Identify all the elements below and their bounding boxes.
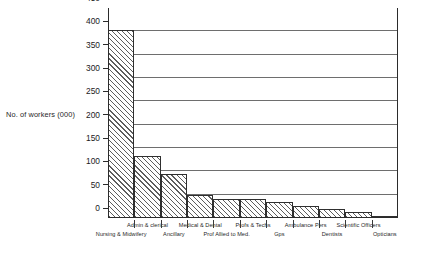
plot-frame bbox=[108, 8, 398, 218]
y-axis-tick: 100 bbox=[86, 156, 108, 166]
y-axis-tick: 0 bbox=[95, 203, 108, 213]
category-divider bbox=[134, 220, 135, 228]
y-axis-tick-label: 100 bbox=[86, 156, 103, 166]
x-axis-category-label: Gps bbox=[274, 231, 284, 237]
plot-area: 050100150200250300350400450 bbox=[108, 8, 398, 218]
category-divider bbox=[240, 220, 241, 228]
x-axis-category-labels: Nursing & MidwiferyAdmin & clericalAncil… bbox=[108, 219, 398, 253]
category-divider bbox=[293, 220, 294, 228]
category-divider bbox=[345, 220, 346, 228]
bar-chart-figure: No. of workers (000) 0501001502002503003… bbox=[0, 0, 421, 255]
category-divider bbox=[319, 220, 320, 228]
y-axis-tick-label: 150 bbox=[86, 133, 103, 143]
y-axis-tick-label: 300 bbox=[86, 63, 103, 73]
y-axis-tick: 150 bbox=[86, 133, 108, 143]
y-axis-tick-label: 50 bbox=[91, 180, 103, 190]
y-axis-tick-label: 200 bbox=[86, 110, 103, 120]
y-axis-tick: 400 bbox=[86, 16, 108, 26]
x-axis-category-label: Prof Allied to Med. bbox=[203, 231, 249, 237]
category-divider bbox=[266, 220, 267, 228]
y-axis-tick-label: 0 bbox=[95, 203, 103, 213]
y-axis-tick-label: 400 bbox=[86, 16, 103, 26]
category-divider bbox=[161, 220, 162, 228]
y-axis-tick: 200 bbox=[86, 110, 108, 120]
x-axis-category-label: Scientific Officers bbox=[336, 222, 380, 228]
x-axis-category-label: Ancillary bbox=[163, 231, 185, 237]
x-axis-category-label: Dentists bbox=[322, 231, 343, 237]
x-axis-category-label: Admin & clerical bbox=[127, 222, 168, 228]
y-axis-tick: 250 bbox=[86, 86, 108, 96]
y-axis-tick: 350 bbox=[86, 40, 108, 50]
y-axis-tick-label: 450 bbox=[86, 0, 103, 3]
y-axis-tick: 450 bbox=[86, 0, 108, 3]
y-axis-tick-label: 250 bbox=[86, 86, 103, 96]
x-axis-category-label: Opticians bbox=[373, 231, 397, 237]
x-axis-category-label: Ambulance Pers bbox=[285, 222, 327, 228]
category-divider bbox=[213, 220, 214, 228]
y-axis-title: No. of workers (000) bbox=[6, 110, 75, 119]
category-divider bbox=[187, 220, 188, 228]
category-divider bbox=[372, 220, 373, 228]
y-axis-tick: 50 bbox=[91, 180, 108, 190]
x-axis-category-label: Medical & Dental bbox=[179, 222, 222, 228]
y-axis-tick: 300 bbox=[86, 63, 108, 73]
x-axis-category-label: Nursing & Midwifery bbox=[96, 231, 147, 237]
y-axis-tick-label: 350 bbox=[86, 40, 103, 50]
